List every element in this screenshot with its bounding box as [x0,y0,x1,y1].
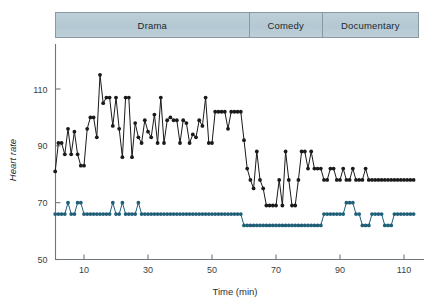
series-0 [53,73,415,208]
data-point [85,127,89,131]
data-point [111,201,115,205]
data-point [121,201,125,205]
data-point [351,167,355,171]
data-point [95,135,99,139]
data-point [204,96,208,100]
series-line-0 [55,75,413,206]
data-point [412,212,416,216]
x-tick-label-90: 90 [335,265,345,275]
x-tick-labels: 1030507090110 [79,265,411,275]
x-tick-label-50: 50 [207,265,217,275]
data-point [137,201,141,205]
data-point [309,150,313,154]
data-point [319,224,323,228]
data-point [319,167,323,171]
data-point [66,127,70,131]
x-tick-label-70: 70 [271,265,281,275]
y-tick-label-50: 50 [37,255,47,265]
data-point [79,201,83,205]
data-point [361,178,365,182]
data-point [76,152,80,156]
data-point [130,155,134,159]
data-point [284,150,288,154]
data-point [159,96,163,100]
data-point [210,141,214,145]
data-point [98,73,102,77]
axes-group: 1030507090110 507090110 [33,44,424,275]
data-point [73,212,77,216]
data-point [156,141,160,145]
data-point [412,178,416,182]
data-point [277,178,281,182]
data-point [367,224,371,228]
data-point [69,152,73,156]
data-point [121,155,125,159]
data-point [252,187,256,191]
data-point [351,201,355,205]
data-point [226,127,230,131]
data-point [133,212,137,216]
data-point [194,135,198,139]
data-point [149,135,153,139]
data-point [245,167,249,171]
data-point [306,167,310,171]
data-point [165,118,169,122]
data-point [348,178,352,182]
data-point [153,113,157,117]
data-point [82,164,86,168]
series-1 [53,201,415,228]
chart-figure: Drama Comedy Documentary 1030507090110 5… [0,0,437,304]
data-point [73,130,77,134]
y-tick-label-110: 110 [33,85,47,95]
data-point [274,204,278,208]
data-point [380,212,384,216]
y-tick-label-70: 70 [37,198,47,208]
data-point [117,212,121,216]
data-point [114,96,118,100]
data-point [185,121,189,125]
data-point [137,135,141,139]
data-point [66,201,70,205]
data-point [338,178,342,182]
y-tick-label-90: 90 [37,141,47,151]
data-point [197,118,201,122]
data-point [258,178,262,182]
data-point [181,118,185,122]
data-point [63,212,67,216]
data-point [293,204,297,208]
y-tick-labels: 507090110 [33,85,47,266]
data-point [140,141,144,145]
data-point [332,167,336,171]
data-point [242,138,246,142]
data-point [63,152,67,156]
data-point [117,127,121,131]
data-point [364,167,368,171]
data-point [201,124,205,128]
data-point [188,141,192,145]
data-point [108,96,112,100]
data-point [53,170,57,174]
data-point [101,101,105,105]
data-point [287,178,291,182]
data-point [389,224,393,228]
data-point [92,116,96,120]
data-point [178,141,182,145]
data-series-group [53,73,415,227]
data-point [357,212,361,216]
data-point [297,178,301,182]
data-point [341,212,345,216]
data-point [341,167,345,171]
x-tick-label-30: 30 [143,265,153,275]
x-tick-label-10: 10 [79,265,89,275]
x-axis-title: Time (min) [212,286,257,297]
data-point [325,178,329,182]
data-point [239,110,243,114]
data-point [146,130,150,134]
data-point [249,178,253,182]
data-point [255,150,259,154]
data-point [169,116,173,120]
data-point [303,150,307,154]
data-point [60,141,64,145]
data-point [223,110,227,114]
data-point [143,118,147,122]
